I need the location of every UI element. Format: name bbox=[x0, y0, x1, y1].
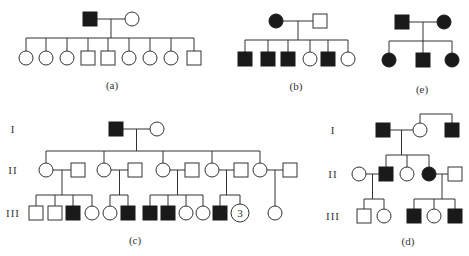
panel-c-gen3-male-affected bbox=[143, 206, 157, 220]
panel-c-gen2-spouse-male bbox=[234, 163, 248, 177]
panel-c-gen2-spouse-male bbox=[283, 163, 297, 177]
panel-d-gen3-male-affected bbox=[407, 209, 421, 223]
panel-c-gen2-female bbox=[253, 163, 267, 177]
panel-c-gen2-female bbox=[156, 163, 170, 177]
panel-e-child-male-affected bbox=[416, 53, 430, 67]
panel-c-gen2-female bbox=[205, 163, 219, 177]
panel-a-parent-male-affected bbox=[83, 12, 97, 26]
generation-label-c-2: II bbox=[8, 164, 17, 176]
panel-c-gen2-female bbox=[97, 163, 111, 177]
generation-label-c-3: III bbox=[6, 207, 20, 219]
panel-d-gen1-male-affected bbox=[376, 123, 390, 137]
generation-label-d-3: III bbox=[326, 210, 340, 222]
panel-e-parent-female-affected bbox=[437, 15, 451, 29]
panel-a-child-female bbox=[143, 51, 157, 65]
panel-d-gen3-female bbox=[377, 209, 391, 223]
panel-d-gen2-male-affected bbox=[379, 167, 393, 181]
panel-label-a: (a) bbox=[106, 79, 119, 92]
sibling-count-label: 3 bbox=[237, 207, 243, 219]
panel-a-child-male bbox=[187, 51, 201, 65]
panel-b-parent-female-affected bbox=[269, 14, 283, 28]
panel-label-c: (c) bbox=[129, 234, 142, 247]
panel-c-gen3-male-affected bbox=[213, 206, 227, 220]
pedigree-figure: (a) (b) (e) (c) (d) I II III I II III 3 bbox=[0, 0, 469, 256]
panel-a-child-female bbox=[19, 51, 33, 65]
panel-a-parent-female bbox=[125, 12, 139, 26]
panel-c-gen3-female bbox=[268, 206, 282, 220]
panel-b-parent-male bbox=[313, 14, 327, 28]
panel-c-gen2-spouse-male bbox=[185, 163, 199, 177]
panel-c-gen3-male-affected bbox=[121, 206, 135, 220]
generation-label-d-1: I bbox=[331, 124, 336, 136]
panel-c-gen3-female bbox=[196, 206, 210, 220]
panel-a-child-female bbox=[122, 51, 136, 65]
panel-a-child-female bbox=[164, 51, 178, 65]
panel-b-child-male-affected bbox=[321, 52, 335, 66]
panel-e-child-female-affected bbox=[382, 53, 396, 67]
panel-c-gen3-male-affected bbox=[66, 206, 80, 220]
panel-d-gen2-female bbox=[352, 167, 366, 181]
panel-d-gen3-male bbox=[357, 209, 371, 223]
panel-d-gen3-female bbox=[427, 209, 441, 223]
panel-c-gen1-female bbox=[150, 122, 164, 136]
panel-a-child-male bbox=[81, 51, 95, 65]
panel-b-child-male-affected bbox=[261, 52, 275, 66]
generation-label-c-1: I bbox=[11, 123, 16, 135]
panel-b-child-male-affected bbox=[238, 52, 252, 66]
panel-c-gen3-male bbox=[29, 206, 43, 220]
panel-c-gen3-female bbox=[103, 206, 117, 220]
panel-c-gen1-male-affected bbox=[109, 122, 123, 136]
panel-d-gen1-male-affected bbox=[445, 123, 459, 137]
panel-b-child-female bbox=[341, 52, 355, 66]
pedigree-symbols: 3 bbox=[19, 12, 462, 223]
panel-c-gen2-female bbox=[39, 163, 53, 177]
panel-c-gen3-female bbox=[85, 206, 99, 220]
panel-a-child-male bbox=[101, 51, 115, 65]
panel-e-parent-male-affected bbox=[395, 15, 409, 29]
panel-d-gen2-female-affected bbox=[422, 167, 436, 181]
panel-b-child-female bbox=[303, 52, 317, 66]
panel-c-gen2-spouse-male bbox=[128, 163, 142, 177]
generation-label-d-2: II bbox=[328, 168, 337, 180]
panel-c-gen2-spouse-male bbox=[71, 163, 85, 177]
panel-label-e: (e) bbox=[416, 83, 429, 96]
panel-label-d: (d) bbox=[402, 235, 415, 248]
panel-d-gen2-female bbox=[400, 167, 414, 181]
panel-c-gen3-female bbox=[179, 206, 193, 220]
panel-d-gen3-male-affected bbox=[448, 209, 462, 223]
panel-b-child-male-affected bbox=[281, 52, 295, 66]
panel-e-child-female-affected bbox=[445, 53, 459, 67]
panel-a-child-female bbox=[60, 51, 74, 65]
panel-d-gen1-female bbox=[413, 123, 427, 137]
panel-c-gen3-male bbox=[48, 206, 62, 220]
panel-d-gen2-male bbox=[448, 167, 462, 181]
panel-label-b: (b) bbox=[290, 80, 303, 93]
panel-a-child-female bbox=[39, 51, 53, 65]
panel-c-gen3-male-affected bbox=[161, 206, 175, 220]
